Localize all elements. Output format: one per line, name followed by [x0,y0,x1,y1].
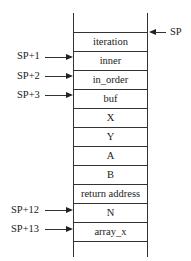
arrow-head-sp3-icon [66,92,73,98]
arrow-sp13 [45,229,67,230]
arrow-sp2 [45,76,67,77]
arrow-sp12 [45,210,67,211]
arrow-head-sp12-icon [66,207,73,213]
stack-cell-x: X [74,108,147,127]
stack-cell-inner: inner [74,51,147,70]
arrow-head-sp1-icon [66,54,73,60]
stack-cell-b: B [74,165,147,184]
arrow-sp3 [45,95,67,96]
pointer-label-sp3: SP+3 [17,89,40,101]
arrow-sp1 [45,57,67,58]
stack-cell-y: Y [74,127,147,146]
stack-cell-n: N [74,203,147,222]
stack-frame: iteration inner in_order buf X Y A B ret… [73,13,148,257]
stack-cell-array-x: array_x [74,222,147,241]
pointer-label-sp13: SP+13 [11,223,39,235]
stack-cell-buf: buf [74,89,147,108]
arrow-head-sp2-icon [66,73,73,79]
arrow-head-sp13-icon [66,226,73,232]
pointer-label-sp1: SP+1 [17,50,40,62]
arrow-sp [155,32,166,33]
stack-cell-a: A [74,146,147,165]
stack-bottom-divider [74,241,147,242]
pointer-label-sp2: SP+2 [17,70,40,82]
pointer-label-sp: SP [170,26,182,38]
stack-cell-iteration: iteration [74,32,147,51]
stack-cell-return-address: return address [74,184,147,203]
stack-cell-in-order: in_order [74,70,147,89]
pointer-label-sp12: SP+12 [11,204,39,216]
